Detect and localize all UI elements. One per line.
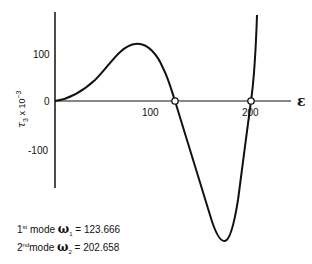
root-marker-2 (248, 98, 254, 104)
y-axis-label: τ3 x 10−3 (15, 90, 29, 128)
x-tick-100: 100 (142, 107, 159, 118)
x-axis-label: ε (297, 93, 306, 109)
y-tick-minus-100: -100 (28, 145, 48, 156)
y-tick-100: 100 (33, 49, 50, 60)
root-marker-1 (172, 98, 178, 104)
tau3-curve (55, 15, 257, 241)
mode2-annotation: 2ndmode ω2 = 202.658 (17, 240, 119, 255)
svg-text:τ3 x 10−3: τ3 x 10−3 (15, 90, 29, 128)
x-tick-200: 200 (242, 107, 259, 118)
y-tick-0: 0 (44, 96, 50, 107)
mode1-annotation: 1st mode ω1 = 123.666 (17, 222, 120, 237)
